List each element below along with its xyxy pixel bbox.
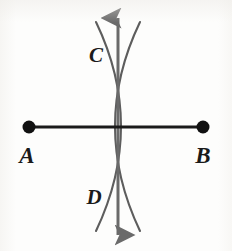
point-label-b: B [194,143,210,168]
point-label-c: C [89,43,104,67]
point-b-dot [197,121,210,134]
point-a-dot [23,121,36,134]
construction-diagram: A B C D [0,0,232,251]
point-label-a: A [17,143,34,168]
point-label-d: D [85,185,101,209]
geometry-figure: A B C D [0,0,232,251]
